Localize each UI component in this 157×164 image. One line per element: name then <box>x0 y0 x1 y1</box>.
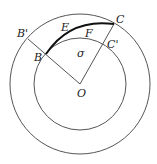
label-C: C <box>116 13 125 26</box>
label-C-prime: C' <box>107 38 118 51</box>
diagram-canvas: B' B E F C C' σ O <box>0 0 157 164</box>
label-O: O <box>77 87 86 100</box>
label-B: B <box>33 51 42 64</box>
label-sigma: σ <box>77 47 85 60</box>
label-B-prime: B' <box>16 27 28 40</box>
label-F: F <box>84 27 93 40</box>
label-E: E <box>60 21 69 34</box>
